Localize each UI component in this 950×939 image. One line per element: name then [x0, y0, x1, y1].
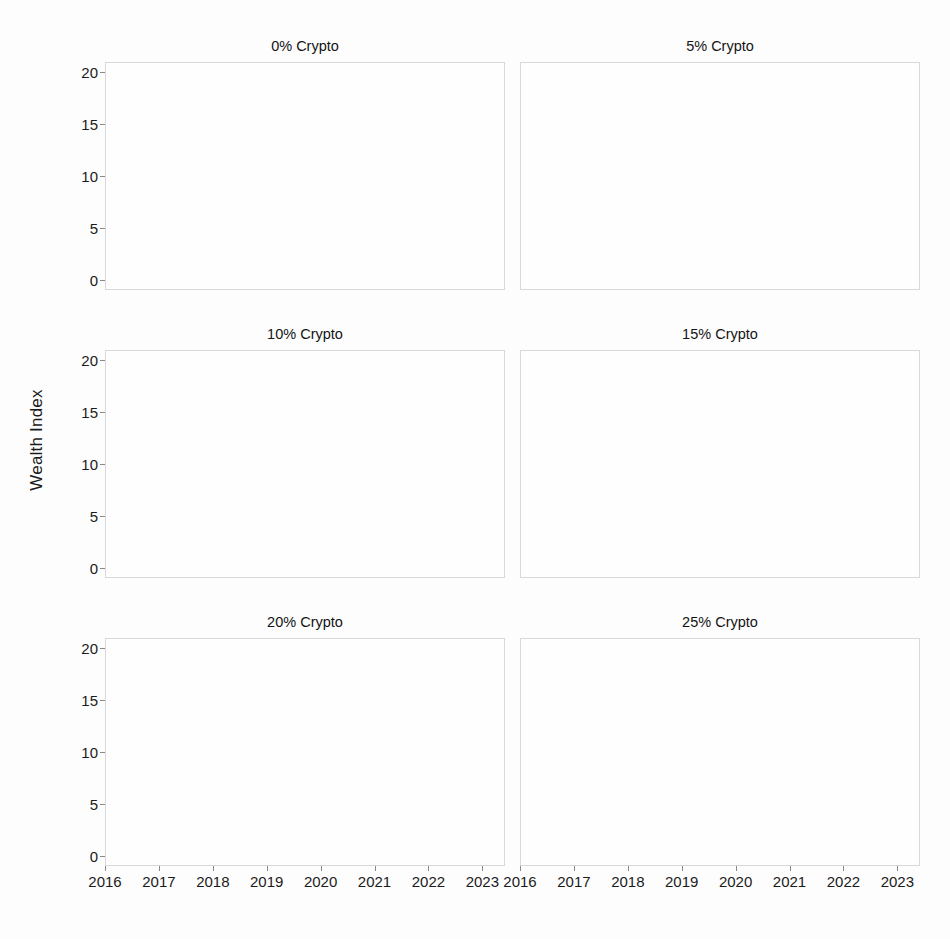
panel-3: 15% Crypto [520, 350, 920, 578]
x-tick-label: 2017 [142, 873, 175, 890]
y-tick-mark [100, 568, 105, 569]
x-tick-label: 2017 [557, 873, 590, 890]
x-tick-label: 2016 [503, 873, 536, 890]
y-tick-label: 15 [81, 692, 98, 709]
y-tick-mark [100, 516, 105, 517]
x-tick-label: 2022 [412, 873, 445, 890]
panel-4: 20% Crypto 05101520201620172018201920202… [105, 638, 505, 866]
y-tick-label: 5 [90, 795, 98, 812]
y-tick-label: 0 [90, 559, 98, 576]
x-tick-mark [843, 866, 844, 871]
y-tick-label: 10 [81, 456, 98, 473]
x-tick-mark [105, 866, 106, 871]
panel-0: 0% Crypto 05101520 [105, 62, 505, 290]
y-tick-label: 20 [81, 352, 98, 369]
plot-frame [105, 62, 505, 290]
plot-frame [520, 638, 920, 866]
y-tick-mark [100, 72, 105, 73]
y-tick-mark [100, 648, 105, 649]
x-tick-mark [213, 866, 214, 871]
panel-2: 10% Crypto 05101520 [105, 350, 505, 578]
x-tick-label: 2022 [827, 873, 860, 890]
y-tick-label: 0 [90, 271, 98, 288]
y-tick-label: 15 [81, 404, 98, 421]
y-tick-mark [100, 804, 105, 805]
y-tick-label: 5 [90, 219, 98, 236]
panel-1: 5% Crypto [520, 62, 920, 290]
y-tick-label: 5 [90, 507, 98, 524]
x-tick-mark [574, 866, 575, 871]
panel-title: 20% Crypto [105, 614, 505, 630]
y-tick-label: 0 [90, 847, 98, 864]
y-tick-mark [100, 228, 105, 229]
x-tick-mark [159, 866, 160, 871]
panel-title: 15% Crypto [520, 326, 920, 342]
x-tick-label: 2020 [719, 873, 752, 890]
x-tick-label: 2016 [88, 873, 121, 890]
x-tick-label: 2019 [665, 873, 698, 890]
y-tick-label: 15 [81, 116, 98, 133]
y-tick-label: 10 [81, 744, 98, 761]
y-tick-mark [100, 752, 105, 753]
plot-frame [520, 350, 920, 578]
panel-title: 10% Crypto [105, 326, 505, 342]
y-tick-label: 10 [81, 168, 98, 185]
x-tick-label: 2023 [466, 873, 499, 890]
x-tick-mark [897, 866, 898, 871]
x-tick-mark [428, 866, 429, 871]
y-tick-label: 20 [81, 640, 98, 657]
y-tick-mark [100, 412, 105, 413]
x-tick-mark [375, 866, 376, 871]
y-tick-mark [100, 176, 105, 177]
x-tick-label: 2021 [358, 873, 391, 890]
plot-frame [105, 350, 505, 578]
y-tick-mark [100, 360, 105, 361]
x-tick-label: 2020 [304, 873, 337, 890]
x-tick-mark [321, 866, 322, 871]
y-tick-mark [100, 700, 105, 701]
panel-5: 25% Crypto 20162017201820192020202120222… [520, 638, 920, 866]
figure-root: Wealth Index 0% Crypto 05101520 5% Crypt… [0, 0, 950, 939]
x-tick-label: 2023 [881, 873, 914, 890]
panel-title: 5% Crypto [520, 38, 920, 54]
y-tick-mark [100, 856, 105, 857]
x-tick-mark [790, 866, 791, 871]
x-tick-mark [736, 866, 737, 871]
plot-frame [105, 638, 505, 866]
y-tick-label: 20 [81, 64, 98, 81]
y-tick-mark [100, 464, 105, 465]
x-tick-mark [482, 866, 483, 871]
panel-title: 25% Crypto [520, 614, 920, 630]
x-tick-label: 2018 [611, 873, 644, 890]
plot-frame [520, 62, 920, 290]
panel-title: 0% Crypto [105, 38, 505, 54]
x-tick-mark [520, 866, 521, 871]
x-tick-label: 2019 [250, 873, 283, 890]
y-axis-label: Wealth Index [27, 360, 47, 520]
x-tick-label: 2021 [773, 873, 806, 890]
x-tick-label: 2018 [196, 873, 229, 890]
x-tick-mark [682, 866, 683, 871]
y-tick-mark [100, 280, 105, 281]
x-tick-mark [267, 866, 268, 871]
y-tick-mark [100, 124, 105, 125]
x-tick-mark [628, 866, 629, 871]
